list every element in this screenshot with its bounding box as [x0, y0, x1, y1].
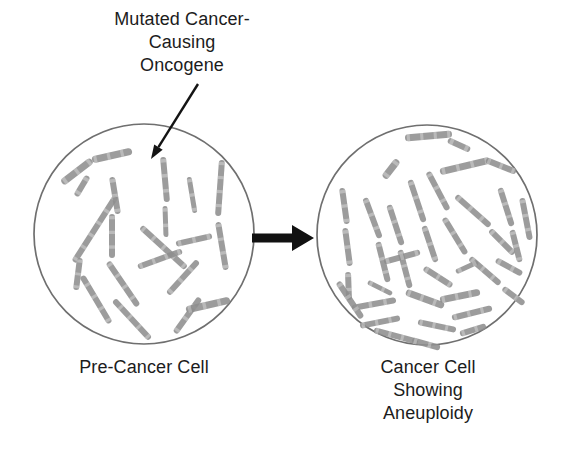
- oncogene-annotation-label: Mutated Cancer- Causing Oncogene: [84, 8, 280, 77]
- transition-arrow: [252, 225, 314, 251]
- chromosome: [109, 214, 115, 258]
- pre-cancer-cell-caption: Pre-Cancer Cell: [28, 356, 260, 379]
- cancer-cell: [317, 125, 537, 351]
- figure-canvas: Mutated Cancer- Causing Oncogene Pre-Can…: [0, 0, 568, 454]
- cancer-cell-caption: Cancer Cell Showing Aneuploidy: [312, 356, 544, 425]
- pre-cancer-cell: [34, 124, 254, 344]
- transition-arrow-glyph: [252, 225, 314, 251]
- chromosome: [163, 206, 169, 237]
